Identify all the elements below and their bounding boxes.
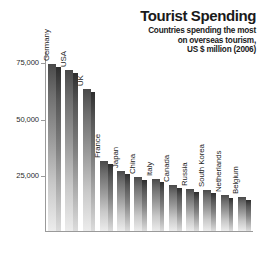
bar-face (117, 171, 125, 231)
bar-face (169, 185, 177, 231)
chart-subtitle: Countries spending the most on overseas … (106, 26, 256, 55)
bar[interactable] (134, 177, 147, 231)
y-axis-tick-label: 75,000 (16, 58, 39, 67)
bar-label: Italy (145, 162, 154, 176)
bar-label: Canada (162, 155, 171, 182)
bar-group[interactable]: Russia (186, 52, 199, 231)
bar[interactable] (48, 64, 61, 231)
y-axis-tick-label: 25,000 (16, 171, 39, 180)
bar-shadow (229, 198, 234, 231)
bar-face (65, 70, 73, 231)
bar-label: China (128, 154, 137, 174)
bar[interactable] (238, 197, 251, 231)
bar-shadow (125, 174, 130, 231)
bar-group[interactable]: Belgium (238, 52, 251, 231)
bar-label: Belgium (231, 166, 240, 194)
bar[interactable] (203, 190, 216, 231)
bar[interactable] (152, 179, 165, 231)
bar[interactable] (186, 189, 199, 231)
bar-group[interactable]: Netherlands (221, 52, 234, 231)
bar[interactable] (221, 195, 234, 231)
bar-face (221, 195, 229, 231)
bar[interactable] (65, 70, 78, 231)
bar-group[interactable]: Italy (152, 52, 165, 231)
bar[interactable] (169, 185, 182, 231)
bar-label: Russia (179, 162, 188, 186)
chart-title: Tourist Spending (106, 8, 256, 23)
bar-shadow (246, 200, 251, 231)
bar-group[interactable]: France (100, 52, 113, 231)
bar-label: Netherlands (214, 150, 223, 191)
bar-shadow (56, 67, 61, 231)
bar-shadow (160, 182, 165, 231)
bar-face (134, 177, 142, 231)
bar-series: GermanyUSAUKFranceJapanChinaItalyCanadaR… (46, 52, 253, 231)
chart-title-block: Tourist Spending Countries spending the … (106, 8, 256, 55)
bar-label: UK (76, 76, 85, 87)
y-axis-tick-mark (41, 63, 45, 64)
bar-group[interactable]: South Korea (203, 52, 216, 231)
plot-area: 75,00050,00025,000 GermanyUSAUKFranceJap… (45, 52, 253, 232)
bar-shadow (142, 180, 147, 231)
bar-group[interactable]: Japan (117, 52, 130, 231)
bar-face (48, 64, 56, 231)
bar-face (152, 179, 160, 231)
bar-face (186, 189, 194, 231)
chart-subtitle-line-2: on overseas tourism, (106, 36, 256, 46)
bar[interactable] (100, 161, 113, 231)
y-axis-tick-mark (41, 176, 45, 177)
bar-shadow (211, 193, 216, 231)
bar-label: France (93, 134, 102, 158)
tourist-spending-chart: Tourist Spending Countries spending the … (0, 0, 264, 254)
bar-face (100, 161, 108, 231)
y-axis-tick-mark (41, 120, 45, 121)
bar-face (238, 197, 246, 231)
bar-shadow (108, 164, 113, 231)
bar-label: South Korea (197, 145, 206, 188)
bar-face (203, 190, 211, 231)
bar[interactable] (117, 171, 130, 231)
bar-face (83, 89, 91, 231)
bar-label: USA (59, 51, 68, 67)
bar-group[interactable]: China (134, 52, 147, 231)
bar-shadow (194, 192, 199, 231)
bar-label: Germany (41, 29, 50, 61)
bar-shadow (177, 188, 182, 231)
bar[interactable] (83, 89, 96, 231)
y-axis-tick-label: 50,000 (16, 115, 39, 124)
bar-shadow (73, 73, 78, 231)
bar-group[interactable]: Canada (169, 52, 182, 231)
bar-group[interactable]: Germany (48, 52, 61, 231)
x-axis-baseline (45, 231, 253, 232)
chart-subtitle-line-1: Countries spending the most (106, 26, 256, 36)
bar-shadow (91, 92, 96, 231)
bar-label: Japan (110, 147, 119, 168)
